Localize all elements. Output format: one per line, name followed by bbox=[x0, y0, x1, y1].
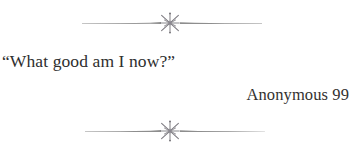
bottom-section-divider bbox=[0, 118, 355, 144]
top-section-divider bbox=[0, 10, 355, 36]
epigraph-page: “What good am I now?” Anonymous 99 bbox=[0, 0, 355, 148]
divider-left-rule bbox=[82, 22, 161, 24]
divider-left-rule bbox=[85, 130, 161, 132]
divider-right-rule bbox=[180, 22, 262, 24]
star-fleuron-ornament bbox=[161, 120, 180, 141]
star-fleuron-ornament bbox=[161, 12, 180, 33]
epigraph-quote: “What good am I now?” bbox=[2, 50, 175, 72]
epigraph-attribution: Anonymous 99 bbox=[247, 84, 350, 105]
divider-right-rule bbox=[180, 130, 265, 132]
